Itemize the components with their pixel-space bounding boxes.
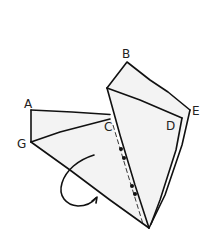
label-d: D xyxy=(166,119,175,133)
label-g: G xyxy=(17,137,26,151)
fold-diagram: B A C D E G xyxy=(0,0,208,231)
label-e: E xyxy=(192,104,200,118)
label-b: B xyxy=(122,47,130,61)
label-c: C xyxy=(104,120,112,134)
label-a: A xyxy=(24,97,33,111)
